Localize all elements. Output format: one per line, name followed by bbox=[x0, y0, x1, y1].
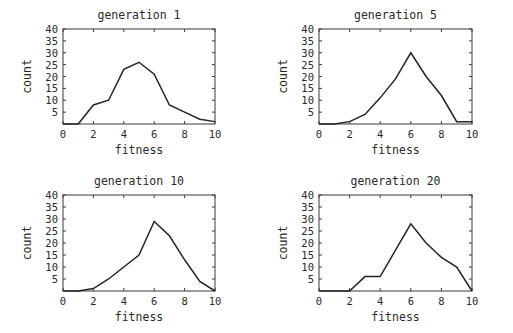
x-tick-label: 2 bbox=[90, 295, 96, 307]
x-tick-label: 8 bbox=[181, 128, 187, 140]
x-tick-label: 6 bbox=[151, 128, 157, 140]
y-tick-label: 15 bbox=[301, 249, 314, 261]
y-tick-label: 20 bbox=[45, 71, 58, 83]
y-axis-title: count bbox=[276, 226, 290, 261]
y-axis-title: count bbox=[20, 59, 34, 94]
x-tick-label: 2 bbox=[346, 295, 352, 307]
plot-frame bbox=[63, 29, 215, 124]
y-tick-label: 5 bbox=[52, 273, 58, 285]
x-axis-title: fitness bbox=[115, 310, 163, 324]
x-tick-label: 6 bbox=[408, 295, 414, 307]
x-tick-label: 0 bbox=[60, 295, 66, 307]
x-tick-label: 4 bbox=[377, 295, 383, 307]
y-tick-label: 25 bbox=[301, 59, 314, 71]
y-axis-title: count bbox=[276, 59, 290, 94]
y-tick-label: 10 bbox=[301, 94, 314, 106]
x-tick-label: 10 bbox=[466, 128, 479, 140]
chart-title: generation 1 bbox=[97, 8, 180, 22]
x-tick-label: 10 bbox=[209, 128, 222, 140]
y-tick-label: 20 bbox=[45, 237, 58, 249]
y-tick-label: 5 bbox=[308, 273, 314, 285]
y-tick-label: 10 bbox=[45, 94, 58, 106]
y-tick-label: 15 bbox=[45, 82, 58, 94]
chart-svg-generation-20: generation 205101520253035400246810fitne… bbox=[256, 166, 513, 333]
x-axis-title: fitness bbox=[371, 310, 419, 324]
y-tick-label: 15 bbox=[301, 82, 314, 94]
y-tick-label: 15 bbox=[45, 249, 58, 261]
data-series-line bbox=[63, 62, 215, 124]
chart-panel-generation-20: generation 205101520253035400246810fitne… bbox=[256, 166, 513, 333]
x-tick-label: 10 bbox=[209, 295, 222, 307]
x-tick-label: 8 bbox=[181, 295, 187, 307]
y-tick-label: 30 bbox=[301, 47, 314, 59]
x-tick-label: 8 bbox=[438, 295, 444, 307]
x-tick-label: 0 bbox=[316, 295, 322, 307]
y-tick-label: 35 bbox=[45, 201, 58, 213]
chart-title: generation 10 bbox=[94, 174, 184, 188]
y-tick-label: 35 bbox=[301, 35, 314, 47]
y-tick-label: 35 bbox=[45, 35, 58, 47]
chart-panel-generation-5: generation 55101520253035400246810fitnes… bbox=[256, 0, 513, 166]
y-tick-label: 30 bbox=[45, 47, 58, 59]
plot-frame bbox=[63, 195, 215, 291]
x-tick-label: 2 bbox=[90, 128, 96, 140]
chart-title: generation 20 bbox=[350, 174, 440, 188]
x-tick-label: 10 bbox=[466, 295, 479, 307]
chart-title: generation 5 bbox=[354, 8, 437, 22]
data-series-line bbox=[319, 53, 472, 124]
y-tick-label: 30 bbox=[45, 213, 58, 225]
x-tick-label: 6 bbox=[408, 128, 414, 140]
y-tick-label: 40 bbox=[45, 23, 58, 35]
chart-panel-generation-10: generation 105101520253035400246810fitne… bbox=[0, 166, 256, 333]
chart-panel-generation-1: generation 15101520253035400246810fitnes… bbox=[0, 0, 256, 166]
y-tick-label: 10 bbox=[301, 261, 314, 273]
y-tick-label: 5 bbox=[52, 106, 58, 118]
y-tick-label: 40 bbox=[301, 23, 314, 35]
y-tick-label: 5 bbox=[308, 106, 314, 118]
x-tick-label: 4 bbox=[121, 295, 127, 307]
y-tick-label: 40 bbox=[45, 189, 58, 201]
figure-panel-grid: generation 15101520253035400246810fitnes… bbox=[0, 0, 513, 333]
plot-frame bbox=[319, 195, 472, 291]
y-tick-label: 25 bbox=[45, 59, 58, 71]
chart-svg-generation-10: generation 105101520253035400246810fitne… bbox=[0, 166, 256, 333]
y-tick-label: 25 bbox=[45, 225, 58, 237]
y-tick-label: 20 bbox=[301, 71, 314, 83]
y-tick-label: 35 bbox=[301, 201, 314, 213]
x-tick-label: 0 bbox=[316, 128, 322, 140]
x-tick-label: 4 bbox=[121, 128, 127, 140]
y-tick-label: 25 bbox=[301, 225, 314, 237]
data-series-line bbox=[319, 224, 472, 291]
x-tick-label: 4 bbox=[377, 128, 383, 140]
x-axis-title: fitness bbox=[371, 143, 419, 157]
x-tick-label: 2 bbox=[346, 128, 352, 140]
data-series-line bbox=[63, 221, 215, 291]
y-tick-label: 40 bbox=[301, 189, 314, 201]
x-tick-label: 8 bbox=[438, 128, 444, 140]
x-axis-title: fitness bbox=[115, 143, 163, 157]
y-tick-label: 20 bbox=[301, 237, 314, 249]
y-axis-title: count bbox=[20, 226, 34, 261]
chart-svg-generation-1: generation 15101520253035400246810fitnes… bbox=[0, 0, 256, 166]
x-tick-label: 0 bbox=[60, 128, 66, 140]
y-tick-label: 30 bbox=[301, 213, 314, 225]
x-tick-label: 6 bbox=[151, 295, 157, 307]
y-tick-label: 10 bbox=[45, 261, 58, 273]
chart-svg-generation-5: generation 55101520253035400246810fitnes… bbox=[256, 0, 513, 166]
